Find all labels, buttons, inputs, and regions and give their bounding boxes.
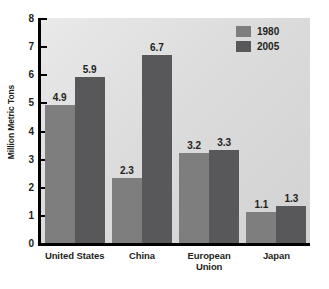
- bar-value-label: 4.9: [53, 92, 67, 103]
- bar-value-label: 5.9: [83, 64, 97, 75]
- y-tick-label: 5: [28, 97, 34, 108]
- bar: 6.7: [142, 55, 172, 243]
- bar: 3.2: [179, 153, 209, 243]
- y-tick: [41, 74, 47, 76]
- legend-swatch: [236, 41, 251, 52]
- x-axis-category-label: Japan: [243, 250, 310, 261]
- y-tick: [41, 46, 47, 48]
- chart-legend: 19802005: [236, 26, 279, 56]
- y-tick: [41, 243, 47, 245]
- bar-value-label: 3.2: [187, 140, 201, 151]
- bar: 5.9: [75, 77, 105, 243]
- x-axis-category-label: China: [108, 250, 175, 261]
- bar: 2.3: [112, 178, 142, 243]
- legend-item: 2005: [236, 41, 279, 52]
- legend-label: 1980: [257, 26, 279, 37]
- y-axis-title-label: Million Metric Tons: [6, 84, 16, 158]
- legend-swatch: [236, 26, 251, 37]
- y-tick-label: 4: [28, 125, 34, 136]
- y-tick-label: 3: [28, 153, 34, 164]
- y-tick-label: 8: [28, 13, 34, 24]
- y-tick-label: 6: [28, 69, 34, 80]
- x-axis-category-label: United States: [41, 250, 108, 261]
- bar-value-label: 1.3: [284, 193, 298, 204]
- y-tick: [41, 18, 47, 20]
- y-tick-label: 0: [28, 238, 34, 249]
- legend-label: 2005: [257, 41, 279, 52]
- legend-item: 1980: [236, 26, 279, 37]
- bar-value-label: 1.1: [254, 199, 268, 210]
- bar: 1.3: [276, 206, 306, 243]
- bar: 4.9: [45, 105, 75, 243]
- y-tick: [41, 102, 47, 104]
- y-tick-label: 1: [28, 209, 34, 220]
- x-axis-line: [38, 243, 310, 246]
- bar-value-label: 2.3: [120, 165, 134, 176]
- y-tick-label: 2: [28, 181, 34, 192]
- bar: 3.3: [209, 150, 239, 243]
- bar-value-label: 3.3: [217, 137, 231, 148]
- bar: 1.1: [246, 212, 276, 243]
- y-tick-label: 7: [28, 41, 34, 52]
- bar-value-label: 6.7: [150, 42, 164, 53]
- y-axis-title: Million Metric Tons: [2, 0, 20, 243]
- x-axis-category-label: European Union: [176, 250, 243, 272]
- bar-chart-figure: Million Metric Tons 012345678 4.95.92.36…: [0, 0, 329, 289]
